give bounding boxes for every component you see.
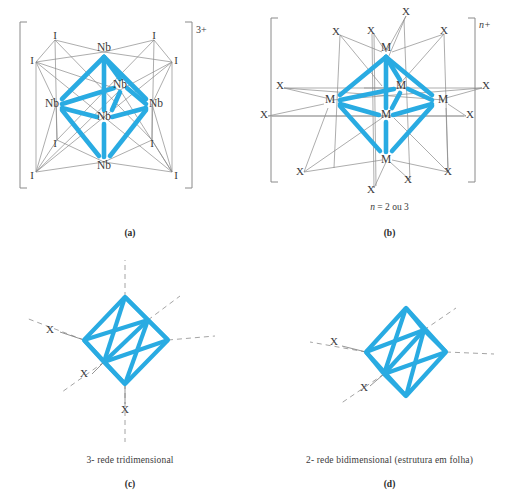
atom-label-m: M [381, 153, 391, 165]
cluster-structures-figure: Nb Nb Nb Nb Nb Nb I I I I I I I I 3+ (a) [0, 0, 521, 504]
atom-label-nb: Nb [113, 78, 127, 90]
panel-a: Nb Nb Nb Nb Nb Nb I I I I I I I I 3+ (a) [0, 0, 260, 252]
atom-label-i: I [174, 169, 178, 181]
panel-letter-a: (a) [0, 228, 260, 238]
atom-label-i: I [30, 169, 34, 181]
atom-label-x: X [46, 323, 54, 335]
atom-label-x: X [404, 173, 412, 185]
atom-label-x: X [121, 403, 129, 415]
panel-b-note-value: = 2 ou 3 [375, 202, 409, 212]
charge-label: n+ [479, 19, 491, 30]
panel-letter-d: (d) [258, 479, 521, 489]
panel-letter-b: (b) [258, 228, 521, 238]
atom-label-m: M [381, 108, 391, 120]
octahedron-edges [84, 297, 168, 384]
atom-label-i: I [53, 29, 57, 41]
ligand-connector-lines [60, 332, 125, 404]
metal-metal-bonds [62, 57, 146, 157]
atom-label-x: X [402, 5, 410, 17]
atom-label-m: M [396, 79, 406, 91]
panel-d-labels: X X [330, 335, 368, 393]
atom-label-x: X [296, 165, 304, 177]
atom-label-x: X [367, 24, 375, 36]
atom-label-x: X [80, 367, 88, 379]
panel-b-note: n = 2 ou 3 [258, 202, 521, 212]
panel-b: M M M M M M X X X X X X X X X X X X [258, 0, 521, 252]
atom-label-i: I [174, 54, 178, 66]
panel-b-structure: M M M M M M X X X X X X X X X X X X [258, 0, 521, 200]
atom-label-nb: Nb [97, 159, 111, 171]
panel-letter-c: (c) [0, 479, 260, 489]
atom-label-x: X [444, 165, 452, 177]
atom-label-i: I [30, 54, 34, 66]
atom-label-x: X [440, 24, 448, 36]
atom-label-m: M [325, 93, 335, 105]
atom-label-x: X [332, 25, 340, 37]
octahedron-edges [366, 308, 446, 396]
atom-label-nb: Nb [97, 110, 111, 122]
atom-label-m: M [438, 93, 448, 105]
atom-label-x: X [367, 183, 375, 195]
atom-label-x: X [276, 79, 284, 91]
atom-label-i: I [152, 29, 156, 41]
charge-label: 3+ [196, 24, 207, 35]
panel-c-structure: X X X [0, 252, 260, 452]
atom-label-nb: Nb [149, 97, 163, 109]
panel-a-structure: Nb Nb Nb Nb Nb Nb I I I I I I I I 3+ [0, 0, 260, 200]
atom-label-x: X [466, 108, 474, 120]
atom-label-i: I [53, 137, 57, 149]
panel-d: X X 2- rede bidimensional (estrutura em … [258, 252, 521, 504]
atom-label-m: M [381, 41, 391, 53]
panel-d-structure: X X [258, 252, 521, 452]
atom-label-x: X [330, 335, 338, 347]
panel-c-caption: 3- rede tridimensional [0, 455, 260, 465]
atom-label-nb: Nb [45, 97, 59, 109]
atom-label-x: X [482, 79, 490, 91]
ligand-bond-lines [268, 16, 482, 188]
network-bridge-dashed-lines [26, 260, 215, 442]
atom-label-nb: Nb [97, 41, 111, 53]
panel-d-caption: 2- rede bidimensional (estrutura em folh… [258, 455, 521, 465]
atom-label-x: X [360, 381, 368, 393]
panel-c: X X X 3- rede tridimensional (c) [0, 252, 260, 504]
atom-label-x: X [260, 108, 268, 120]
atom-label-i: I [150, 137, 154, 149]
